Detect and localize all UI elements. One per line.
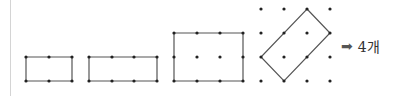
grid-dot xyxy=(218,55,221,58)
rectangle-outline xyxy=(26,57,72,81)
grid-dot xyxy=(305,31,308,34)
rectangle-outline xyxy=(89,57,157,81)
grid-dot xyxy=(282,31,285,34)
grid-dot xyxy=(155,55,158,58)
grid-dot xyxy=(305,79,308,82)
grid-dot xyxy=(282,7,285,10)
figure-rect-3x1 xyxy=(87,55,158,82)
grid-dot xyxy=(195,79,198,82)
grid-dot xyxy=(218,79,221,82)
grid-dot xyxy=(241,31,244,34)
answer-label: ➡ 4개 xyxy=(341,36,380,56)
grid-dot xyxy=(47,79,50,82)
figure-rect-3x2 xyxy=(172,31,244,82)
grid-dot xyxy=(110,55,113,58)
grid-dot xyxy=(24,79,27,82)
grid-dot xyxy=(132,55,135,58)
figure-tilted-rect xyxy=(259,7,331,82)
grid-dot xyxy=(110,79,113,82)
grid-dot xyxy=(132,79,135,82)
grid-dot xyxy=(328,55,331,58)
grid-dot xyxy=(259,31,262,34)
grid-dot xyxy=(328,7,331,10)
answer-count: 4개 xyxy=(358,36,380,56)
grid-dot xyxy=(87,79,90,82)
grid-dot xyxy=(259,7,262,10)
grid-dot xyxy=(47,55,50,58)
grid-dot xyxy=(259,55,262,58)
grid-dot xyxy=(24,55,27,58)
right-arrow-icon: ➡ xyxy=(341,38,353,54)
grid-dot xyxy=(155,79,158,82)
grid-dot xyxy=(282,55,285,58)
rectangle-outline xyxy=(261,9,330,81)
rectangle-outline xyxy=(174,33,243,81)
grid-dot xyxy=(172,31,175,34)
grid-dot xyxy=(195,31,198,34)
grid-dot xyxy=(259,79,262,82)
grid-dot xyxy=(305,7,308,10)
grid-dot xyxy=(218,31,221,34)
grid-dot xyxy=(195,55,198,58)
grid-dot xyxy=(241,55,244,58)
grid-dot xyxy=(282,79,285,82)
grid-dot xyxy=(87,55,90,58)
grid-dot xyxy=(328,79,331,82)
grid-dot xyxy=(241,79,244,82)
grid-dot xyxy=(305,55,308,58)
grid-dot xyxy=(172,79,175,82)
grid-dot xyxy=(70,79,73,82)
grid-dot xyxy=(328,31,331,34)
grid-dot xyxy=(70,55,73,58)
figure-rect-2x1 xyxy=(24,55,73,82)
grid-dot xyxy=(172,55,175,58)
